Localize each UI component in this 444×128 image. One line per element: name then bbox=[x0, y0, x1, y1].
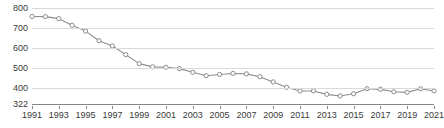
x-tick-label: 2015 bbox=[344, 110, 364, 120]
y-tick-label: 600 bbox=[13, 44, 28, 53]
x-tick-label: 2005 bbox=[210, 110, 230, 120]
gridline bbox=[32, 48, 434, 49]
data-point bbox=[352, 92, 356, 96]
data-point bbox=[57, 17, 61, 21]
y-tick-label: 500 bbox=[13, 64, 28, 73]
x-tick bbox=[139, 106, 140, 109]
data-point bbox=[231, 71, 235, 75]
x-tick bbox=[220, 106, 221, 109]
x-tick bbox=[59, 106, 60, 109]
x-tick bbox=[86, 106, 87, 109]
gridline bbox=[32, 68, 434, 69]
x-tick bbox=[246, 106, 247, 109]
x-tick-label: 1993 bbox=[49, 110, 69, 120]
x-tick-label: 2001 bbox=[156, 110, 176, 120]
data-point bbox=[204, 74, 208, 78]
data-point bbox=[392, 90, 396, 94]
x-tick bbox=[380, 106, 381, 109]
x-tick bbox=[300, 106, 301, 109]
data-point bbox=[338, 94, 342, 98]
x-tick-label: 1995 bbox=[76, 110, 96, 120]
data-point bbox=[43, 15, 47, 19]
gridline bbox=[32, 28, 434, 29]
x-tick bbox=[407, 106, 408, 109]
y-tick-label: 400 bbox=[13, 84, 28, 93]
x-tick-label: 2019 bbox=[397, 110, 417, 120]
data-point bbox=[124, 52, 128, 56]
series-line bbox=[32, 8, 434, 104]
series-markers bbox=[30, 14, 436, 98]
x-axis: 1991199319951997199920012003200520072009… bbox=[32, 106, 434, 128]
x-tick bbox=[166, 106, 167, 109]
x-tick bbox=[193, 106, 194, 109]
data-point bbox=[30, 14, 34, 18]
x-tick-label: 2011 bbox=[290, 110, 309, 120]
y-axis: 800700600500400322 bbox=[0, 0, 30, 128]
x-tick-label: 2017 bbox=[370, 110, 390, 120]
y-tick-label: 700 bbox=[13, 24, 28, 33]
data-point bbox=[137, 62, 141, 66]
x-tick-label: 2007 bbox=[236, 110, 256, 120]
data-point bbox=[258, 75, 262, 79]
x-tick-label: 2003 bbox=[183, 110, 203, 120]
data-point bbox=[311, 89, 315, 93]
data-point bbox=[70, 23, 74, 27]
y-tick-label: 800 bbox=[13, 4, 28, 13]
data-point bbox=[325, 92, 329, 96]
gridline bbox=[32, 88, 434, 89]
data-point bbox=[432, 89, 436, 93]
data-point bbox=[405, 90, 409, 94]
data-point bbox=[84, 29, 88, 33]
x-tick-label: 1991 bbox=[22, 110, 42, 120]
x-tick bbox=[32, 106, 33, 109]
data-point bbox=[97, 39, 101, 43]
data-point bbox=[298, 89, 302, 93]
x-tick bbox=[354, 106, 355, 109]
x-tick bbox=[273, 106, 274, 109]
x-tick-label: 2013 bbox=[317, 110, 337, 120]
x-tick-label: 2009 bbox=[263, 110, 283, 120]
plot-area bbox=[32, 8, 434, 104]
data-point bbox=[244, 72, 248, 76]
x-tick bbox=[434, 106, 435, 109]
x-tick bbox=[112, 106, 113, 109]
data-point bbox=[191, 70, 195, 74]
x-axis-line bbox=[32, 104, 434, 105]
gridline bbox=[32, 8, 434, 9]
x-tick-label: 1999 bbox=[129, 110, 149, 120]
data-point bbox=[218, 72, 222, 76]
x-tick bbox=[327, 106, 328, 109]
x-tick-label: 2021 bbox=[424, 110, 444, 120]
data-point bbox=[271, 80, 275, 84]
x-tick-label: 1997 bbox=[102, 110, 122, 120]
y-tick-label: 322 bbox=[13, 100, 28, 109]
